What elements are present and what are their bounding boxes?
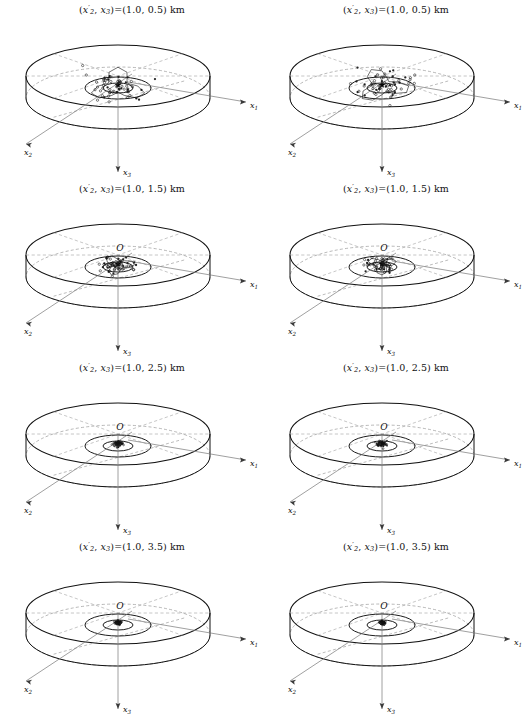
estimate-point — [117, 76, 119, 78]
axis-label-x1: x1 — [250, 459, 258, 469]
axis-arrowhead-x1 — [240, 458, 246, 463]
axis-label-x1: x1 — [250, 638, 258, 648]
axis-label-x3: x3 — [387, 168, 396, 178]
axis-line-x1 — [128, 261, 246, 281]
estimate-point — [103, 81, 105, 83]
panel-r3-c1: (x′2, x3)=(1.0, 2.5) kmx1x2x3O — [0, 358, 264, 537]
origin-label: O — [380, 422, 388, 432]
estimate-point — [109, 258, 111, 260]
axis-arrowhead-x1 — [504, 458, 510, 463]
estimate-point — [101, 95, 103, 97]
estimate-point — [400, 88, 402, 90]
axis-label-x2: x2 — [24, 685, 33, 695]
panel-plot: x1x2x3 — [0, 14, 264, 179]
axis-line-x1 — [392, 261, 510, 281]
estimate-point — [382, 448, 384, 450]
estimate-point — [387, 88, 389, 90]
axis-arrowhead-x1 — [504, 100, 510, 105]
axis-arrowhead-x1 — [240, 279, 246, 284]
axis-line-x1 — [128, 82, 246, 102]
estimate-point — [373, 80, 375, 82]
estimate-point — [374, 441, 376, 443]
estimate-point — [118, 89, 120, 91]
origin-label: O — [380, 243, 388, 253]
axis-line-x1 — [128, 440, 246, 460]
estimate-point — [392, 75, 394, 77]
axis-arrowhead-x1 — [504, 279, 510, 284]
axis-line-x1 — [392, 82, 510, 102]
axis-label-x3: x3 — [123, 168, 132, 178]
estimate-point — [121, 85, 123, 87]
axis-label-x3: x3 — [387, 526, 396, 536]
estimate-point — [114, 265, 116, 267]
estimate-point — [390, 88, 392, 90]
estimate-point — [82, 64, 84, 66]
estimate-point — [379, 443, 381, 445]
axis-label-x1: x1 — [514, 101, 522, 111]
estimate-point — [372, 85, 374, 87]
origin-label: O — [116, 422, 124, 432]
estimate-point — [398, 79, 400, 81]
estimate-point — [111, 444, 113, 446]
estimate-point — [404, 76, 406, 78]
estimate-point — [374, 260, 376, 262]
estimate-point — [127, 265, 129, 267]
estimate-point — [106, 86, 108, 88]
estimate-cloud — [82, 64, 157, 103]
estimate-point — [386, 440, 388, 442]
estimate-point — [413, 82, 415, 84]
estimate-point — [392, 69, 394, 71]
estimate-point — [364, 270, 366, 272]
estimate-point — [356, 66, 358, 68]
axis-label-x1: x1 — [514, 638, 522, 648]
estimate-point — [408, 82, 410, 84]
estimate-point — [126, 85, 128, 87]
panel-r4-c1: (x′2, x3)=(1.0, 3.5) kmx1x2x3O — [0, 537, 264, 716]
axis-label-x2: x2 — [288, 148, 297, 158]
estimate-point — [122, 258, 124, 260]
estimate-point — [385, 264, 387, 266]
estimate-point — [135, 264, 137, 266]
panel-plot: x1x2x3O — [264, 551, 528, 716]
axis-label-x3: x3 — [123, 347, 132, 357]
estimate-point — [111, 275, 113, 277]
estimate-point — [85, 74, 87, 76]
estimate-point — [376, 443, 378, 445]
panel-r2-c2: (x′2, x3)=(1.0, 1.5) kmx1x2x3O — [264, 179, 528, 358]
panel-plot: x1x2x3O — [0, 551, 264, 716]
estimate-point — [391, 268, 393, 270]
axis-label-x1: x1 — [250, 101, 258, 111]
estimate-point — [106, 266, 108, 268]
estimate-point — [99, 270, 101, 272]
panel-r4-c2: (x′2, x3)=(1.0, 3.5) kmx1x2x3O — [264, 537, 528, 716]
estimate-point — [102, 266, 104, 268]
axis-label-x2: x2 — [24, 327, 33, 337]
estimate-point — [363, 264, 365, 266]
axis-label-x2: x2 — [24, 506, 33, 516]
estimate-point — [112, 272, 114, 274]
estimate-point — [374, 75, 376, 77]
axis-label-x3: x3 — [123, 705, 132, 715]
panel-r1-c1: (x′2, x3)=(1.0, 0.5) kmx1x2x3 — [0, 0, 264, 179]
origin-label: O — [380, 601, 388, 611]
estimate-point — [154, 78, 156, 80]
panel-plot: x1x2x3O — [0, 193, 264, 358]
panel-plot: x1x2x3O — [264, 372, 528, 537]
estimate-point — [126, 262, 128, 264]
panel-plot: x1x2x3O — [0, 372, 264, 537]
estimate-point — [95, 81, 97, 83]
estimate-point — [391, 94, 393, 96]
estimate-cloud — [378, 620, 386, 626]
axis-line-x1 — [392, 619, 510, 639]
estimate-point — [375, 93, 377, 95]
estimate-point — [389, 70, 391, 72]
estimate-point — [364, 94, 366, 96]
axis-label-x3: x3 — [387, 347, 396, 357]
estimate-point — [98, 263, 100, 265]
axis-line-x1 — [392, 440, 510, 460]
estimate-point — [123, 88, 125, 90]
estimate-point — [125, 256, 127, 258]
estimate-point — [96, 99, 98, 101]
axis-label-x1: x1 — [250, 280, 258, 290]
axis-label-x3: x3 — [123, 526, 132, 536]
